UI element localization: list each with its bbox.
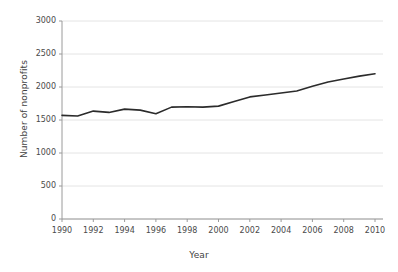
gridlines: [62, 21, 383, 219]
series-line-number-of-nonprofits: [62, 74, 375, 116]
line-chart: 050010001500200025003000 199019921994199…: [0, 0, 398, 272]
y-tick-label: 0: [16, 214, 56, 223]
y-tick-label: 500: [16, 181, 56, 190]
x-tick-label: 2010: [355, 226, 395, 235]
y-tick-label: 3000: [16, 16, 56, 25]
x-axis-title: Year: [0, 250, 398, 260]
y-axis-title: Number of nonprofits: [19, 39, 29, 179]
tick-marks: [59, 21, 375, 222]
data-series-line: [62, 74, 375, 116]
